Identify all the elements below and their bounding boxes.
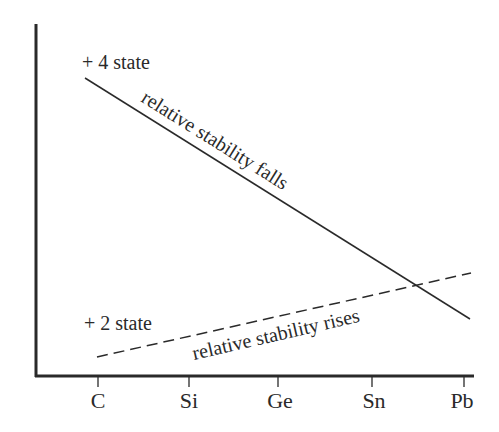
plus4-state-label: + 4 state bbox=[82, 51, 150, 73]
tick-label-si: Si bbox=[180, 388, 198, 413]
plus4-state-line bbox=[85, 78, 470, 319]
tick-label-c: C bbox=[91, 388, 106, 413]
rises-annotation: relative stability rises bbox=[190, 304, 362, 365]
plus2-state-line bbox=[97, 273, 471, 357]
tick-label-sn: Sn bbox=[362, 388, 385, 413]
plus2-state-label: + 2 state bbox=[84, 312, 152, 334]
tick-label-ge: Ge bbox=[267, 388, 293, 413]
stability-diagram: C Si Ge Sn Pb + 4 state + 2 state relati… bbox=[0, 0, 499, 432]
falls-annotation: relative stability falls bbox=[137, 86, 293, 195]
x-ticks bbox=[98, 376, 464, 387]
tick-label-pb: Pb bbox=[450, 388, 473, 413]
